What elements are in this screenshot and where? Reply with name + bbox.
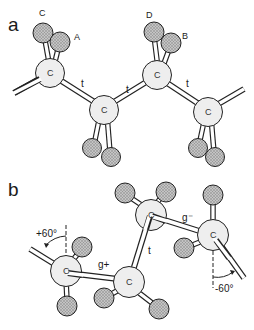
carbon-label: C [154,70,161,80]
bond-label-t: t [186,78,189,89]
atom-D [144,22,164,42]
substituent-atom [115,183,135,203]
arrow-head-icon [230,270,235,275]
substituent-atom [72,237,92,257]
atom-label-a: A [74,32,80,42]
bond-label-t: t [148,245,151,256]
panel-b: b +60° [8,165,244,319]
atom-A [50,32,70,52]
bond-label-g-minus: g⁻ [182,212,193,223]
angle-label-minus-60: -60° [215,283,233,294]
arrow-head-icon [44,243,49,248]
panel-a: a [8,8,244,167]
atom-label-c: C [39,8,46,18]
atom-B [161,33,181,53]
substituent-atom [203,185,223,205]
carbon-label: C [148,210,155,220]
panel-a-label: a [8,14,19,35]
bond-label-g-plus: g+ [98,259,110,270]
carbon-label: C [210,230,217,240]
bond-label-t: t [126,84,129,95]
bond-label-t: t [81,78,84,89]
substituent-atom [189,139,208,158]
substituent-atom [102,148,121,167]
carbon-label: C [63,266,70,276]
atom-label-d: D [146,10,153,20]
substituent-atom [57,296,77,316]
carbon-label: C [205,107,212,117]
carbon-label: C [47,68,54,78]
angle-arc [213,272,233,277]
substituent-atom [174,238,194,258]
carbon-label: C [126,277,133,287]
substituent-atom [156,182,176,202]
conformation-diagram: a [0,0,254,330]
substituent-atom [206,148,225,167]
atom-label-b: B [182,31,188,41]
carbon-label: C [101,105,108,115]
substituent-atom [149,299,169,319]
c1-left-stub [12,79,41,94]
angle-label-plus-60: +60° [36,228,57,239]
substituent-atom [94,288,114,308]
substituent-atom [83,139,102,158]
panel-b-label: b [8,179,19,200]
